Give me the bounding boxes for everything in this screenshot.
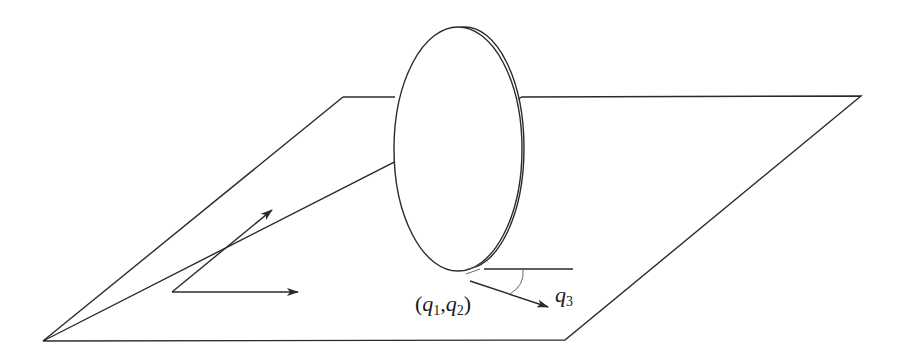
heading-angle-arc [510,269,523,294]
heading-label-q3: q3 [555,282,573,310]
wheel [394,27,524,271]
q2-label: q2 [446,291,464,316]
paren-close: ) [464,291,471,316]
heading-arrow [470,281,548,307]
position-label: (q1,q2) [415,291,471,319]
world-frame-axes [172,210,298,292]
y-axis-arrow [172,210,272,292]
q1-label: q1 [422,291,440,316]
wheel-front-face [394,27,522,271]
